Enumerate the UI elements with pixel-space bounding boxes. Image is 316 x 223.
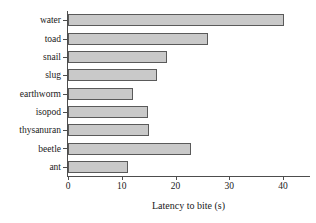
- bar-rect: [68, 124, 149, 136]
- y-tick-ant: [63, 167, 67, 168]
- y-tick-snail: [63, 57, 67, 58]
- category-label-ant: ant: [49, 162, 61, 172]
- bar-rect: [68, 88, 133, 100]
- x-tick-20: [176, 176, 177, 180]
- x-tick-label-10: 10: [107, 181, 137, 192]
- category-label-isopod: isopod: [36, 107, 61, 117]
- bar-water: [68, 14, 284, 26]
- y-tick-beetle: [63, 148, 67, 149]
- bar-isopod: [68, 106, 148, 118]
- x-tick-10: [122, 176, 123, 180]
- bar-ant: [68, 161, 128, 173]
- bar-thysanuran: [68, 124, 149, 136]
- x-tick-label-20: 20: [161, 181, 191, 192]
- bar-rect: [68, 69, 157, 81]
- y-tick-isopod: [63, 112, 67, 113]
- bar-beetle: [68, 143, 191, 155]
- category-label-beetle: beetle: [38, 144, 61, 154]
- bar-rect: [68, 106, 148, 118]
- bar-earthworm: [68, 88, 133, 100]
- bar-rect: [68, 33, 208, 45]
- x-tick-40: [283, 176, 284, 180]
- bar-rect: [68, 161, 128, 173]
- y-tick-toad: [63, 39, 67, 40]
- bar-rect: [68, 14, 284, 26]
- category-label-earthworm: earthworm: [20, 89, 61, 99]
- x-tick-label-40: 40: [268, 181, 298, 192]
- category-label-water: water: [40, 15, 61, 25]
- category-label-slug: slug: [45, 70, 61, 80]
- x-tick-label-30: 30: [214, 181, 244, 192]
- category-label-thysanuran: thysanuran: [19, 125, 61, 135]
- x-axis-line: [67, 176, 310, 177]
- bar-chart-figure: watertoadsnailslugearthwormisopodthysanu…: [0, 0, 316, 223]
- y-tick-earthworm: [63, 94, 67, 95]
- category-label-snail: snail: [43, 52, 61, 62]
- x-tick-label-0: 0: [53, 181, 83, 192]
- bar-rect: [68, 51, 167, 63]
- y-tick-water: [63, 20, 67, 21]
- x-tick-0: [68, 176, 69, 180]
- category-label-toad: toad: [45, 34, 61, 44]
- bar-toad: [68, 33, 208, 45]
- x-tick-30: [229, 176, 230, 180]
- y-tick-slug: [63, 75, 67, 76]
- y-tick-thysanuran: [63, 130, 67, 131]
- x-axis-title: Latency to bite (s): [67, 200, 310, 212]
- bar-rect: [68, 143, 191, 155]
- bar-snail: [68, 51, 167, 63]
- bar-slug: [68, 69, 157, 81]
